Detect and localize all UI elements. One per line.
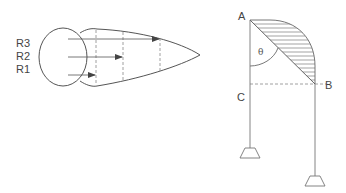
label-c: C: [237, 91, 245, 103]
label-theta: θ: [258, 47, 263, 57]
label-r1: R1: [16, 63, 30, 75]
diagram-canvas: R3 R2 R1 θ: [0, 0, 346, 193]
support-right: [305, 176, 325, 186]
label-r2: R2: [16, 50, 30, 62]
theta-arc: [250, 48, 278, 66]
label-a: A: [238, 10, 246, 22]
support-left: [240, 148, 260, 158]
label-r3: R3: [16, 37, 30, 49]
right-figure: θ A B C: [237, 10, 332, 186]
left-figure: R3 R2 R1: [16, 28, 200, 86]
label-b: B: [325, 79, 332, 91]
teardrop-outline: [80, 29, 200, 87]
